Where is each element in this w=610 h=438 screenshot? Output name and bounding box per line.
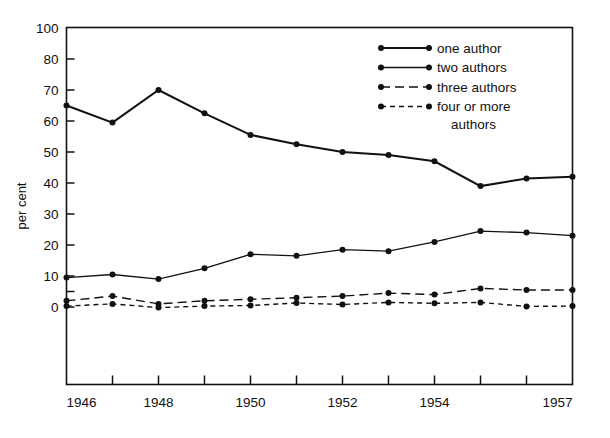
y-tick-label: 60 [43,114,58,129]
data-point [432,239,438,245]
data-point [340,247,346,253]
y-tick-label: 30 [43,207,58,222]
data-point [110,301,116,307]
data-point [386,299,392,305]
legend-marker-end [426,65,432,71]
data-point [294,300,300,306]
legend-marker-end [426,45,432,51]
data-point [432,292,438,298]
series-line [67,288,573,304]
legend-marker-start [378,45,384,51]
data-point [570,287,576,293]
legend-marker-start [378,104,384,110]
x-tick-label: 1957 [542,395,572,410]
y-tick-label: 10 [43,269,58,284]
y-tick-label: 70 [43,83,58,98]
data-point [248,251,254,257]
y-tick-label: 50 [43,145,58,160]
y-tick: 20 [43,238,74,253]
x-tick-label: 1954 [419,395,450,410]
data-point [248,303,254,309]
legend-entry[interactable]: four or more [378,99,511,114]
x-tick-label: 1950 [235,395,265,410]
legend-entry[interactable]: three authors [378,80,517,95]
data-point [202,298,208,304]
y-tick-label: 40 [43,176,58,191]
data-point [202,110,208,116]
data-point [64,303,70,309]
legend-label: four or more [437,99,511,114]
data-point [432,158,438,164]
data-point [110,120,116,126]
data-point [202,303,208,309]
legend-label: one author [437,41,502,56]
y-tick: 80 [43,52,74,67]
data-point [110,272,116,278]
series-line [67,231,573,279]
author-count-line-chart: per cent 10080706050403020100 1946194819… [0,0,610,438]
data-point [432,300,438,306]
data-point [524,287,530,293]
y-axis-ticks: 10080706050403020100 [36,21,75,315]
data-point [64,103,70,109]
legend-entry[interactable]: two authors [378,60,507,75]
y-tick: 0 [51,300,75,315]
data-point [478,228,484,234]
series-line [67,302,573,307]
series-two-authors [64,228,576,282]
data-point [386,290,392,296]
data-point [524,230,530,236]
y-tick-label: 100 [36,21,59,36]
data-point [570,233,576,239]
data-point [524,303,530,309]
data-point [294,295,300,301]
legend-entry[interactable]: one author [378,41,502,56]
y-tick: 100 [36,21,59,36]
y-tick-label: 80 [43,52,58,67]
data-point [340,302,346,308]
data-point [294,253,300,259]
data-point [340,149,346,155]
x-tick-label: 1948 [143,395,173,410]
legend-marker-start [378,65,384,71]
data-point [570,174,576,180]
y-tick: 60 [43,114,74,129]
data-point [64,298,70,304]
data-point [156,276,162,282]
legend-label-wrap: authors [451,117,496,132]
data-point [524,175,530,181]
y-axis-title: per cent [14,182,29,229]
y-tick: 30 [43,207,74,222]
x-tick-label: 1952 [327,395,357,410]
data-point [570,303,576,309]
data-point [110,293,116,299]
legend-marker-end [426,104,432,110]
data-point [478,285,484,291]
chart-legend: one authortwo authorsthree authorsfour o… [378,41,517,132]
data-point [202,265,208,271]
data-point [248,132,254,138]
data-point [248,296,254,302]
legend-label: two authors [437,60,507,75]
chart-figure: per cent 10080706050403020100 1946194819… [0,0,610,438]
data-point [294,141,300,147]
legend-label: three authors [437,80,517,95]
y-tick: 50 [43,145,74,160]
data-point [156,87,162,93]
y-tick: 40 [43,176,74,191]
x-axis-ticks: 194619481950195219541957 [67,376,573,410]
legend-marker-end [426,84,432,90]
data-point [386,248,392,254]
data-point [340,293,346,299]
legend-marker-start [378,84,384,90]
data-point [478,299,484,305]
y-tick: 70 [43,83,74,98]
y-tick-label: 20 [43,238,58,253]
y-tick: 10 [43,269,74,284]
data-point [386,152,392,158]
x-tick-label: 1946 [67,395,97,410]
data-point [64,275,70,281]
data-point [478,183,484,189]
series-layer [64,87,576,311]
y-tick-label: 0 [51,300,59,315]
